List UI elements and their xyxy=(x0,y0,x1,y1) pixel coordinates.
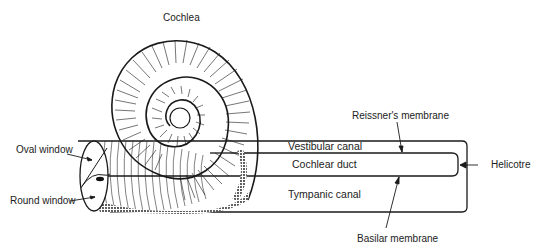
label-helicotre: Helicotre xyxy=(491,159,530,171)
label-oval-window: Oval window xyxy=(16,144,73,156)
label-tympanic-canal: Tympanic canal xyxy=(288,188,361,200)
label-cochlear-duct: Cochlear duct xyxy=(292,158,357,170)
cochlea-diagram xyxy=(0,0,541,252)
label-vestibular-canal: Vestibular canal xyxy=(288,140,362,152)
label-cochlea: Cochlea xyxy=(163,12,200,24)
label-round-window: Round window xyxy=(10,195,76,207)
canal-outline xyxy=(78,141,467,212)
tube-stipple xyxy=(95,190,250,214)
label-basilar-membrane: Basilar membrane xyxy=(357,233,438,245)
label-reissners-membrane: Reissner's membrane xyxy=(352,110,449,122)
